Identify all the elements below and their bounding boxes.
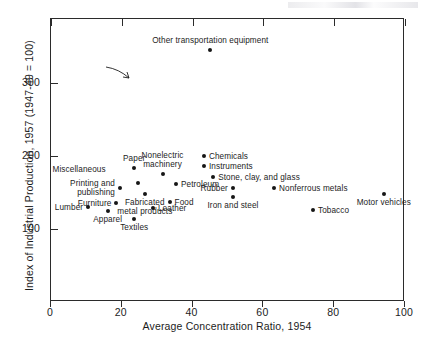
- scan-header-smudge: [288, 2, 418, 8]
- data-point-label: Iron and steel: [207, 201, 258, 210]
- x-tick-top: [334, 19, 335, 26]
- x-tick-top: [51, 19, 52, 26]
- data-point-label: Tobacco: [318, 205, 349, 214]
- x-tick-top: [405, 19, 406, 26]
- data-point-label: Lumber: [55, 202, 83, 211]
- data-point: [272, 186, 276, 190]
- scatter-plot-figure: Index of Industrial Production, 1957 (19…: [0, 0, 422, 341]
- data-point: [202, 154, 206, 158]
- data-point: [382, 192, 386, 196]
- x-tick-label: 60: [256, 306, 268, 318]
- data-point-label: Stone, clay, and glass: [218, 172, 300, 181]
- data-point-label: Leather: [158, 204, 186, 213]
- x-tick-top: [193, 19, 194, 26]
- data-point: [208, 48, 212, 52]
- data-point-label: Motor vehicles: [357, 198, 411, 207]
- data-point: [202, 164, 206, 168]
- data-point-label: Miscellaneous: [53, 164, 106, 173]
- x-axis-label: Average Concentration Ratio, 1954: [50, 320, 404, 332]
- data-point: [311, 208, 315, 212]
- plot-frame: Other transportation equipmentChemicalsI…: [50, 18, 404, 301]
- x-tick-label: 0: [47, 306, 53, 318]
- data-point: [151, 206, 155, 210]
- data-point: [174, 182, 178, 186]
- y-tick-label: 300: [8, 76, 40, 88]
- data-point-label: Other transportation equipment: [152, 36, 268, 45]
- x-tick-label: 20: [115, 306, 127, 318]
- data-point-label: Nonelectric machinery: [141, 151, 183, 169]
- y-tick: [51, 229, 58, 230]
- data-point-label: Instruments: [209, 161, 253, 170]
- x-tick-top: [122, 19, 123, 26]
- data-point: [132, 166, 136, 170]
- y-tick-label: 100: [8, 222, 40, 234]
- data-point-label: Printing and publishing: [70, 179, 115, 197]
- data-point-label: Petroleum: [181, 179, 219, 188]
- y-tick: [51, 83, 58, 84]
- x-tick-label: 40: [186, 306, 198, 318]
- data-point: [86, 205, 90, 209]
- x-tick-label: 80: [327, 306, 339, 318]
- y-tick: [51, 156, 58, 157]
- data-point: [132, 217, 136, 221]
- data-point-label: Apparel: [93, 215, 122, 224]
- data-point: [118, 186, 122, 190]
- data-point: [143, 192, 147, 196]
- y-tick-label: 200: [8, 149, 40, 161]
- data-point: [106, 209, 110, 213]
- x-tick-top: [263, 19, 264, 26]
- data-point-label: Nonferrous metals: [279, 183, 348, 192]
- data-point-label: Chemicals: [209, 151, 248, 160]
- data-point: [136, 181, 140, 185]
- x-tick-label: 100: [395, 306, 413, 318]
- data-point: [114, 201, 118, 205]
- data-point: [231, 195, 235, 199]
- data-point: [161, 172, 165, 176]
- data-point: [231, 186, 235, 190]
- data-point-label: Textiles: [120, 223, 148, 232]
